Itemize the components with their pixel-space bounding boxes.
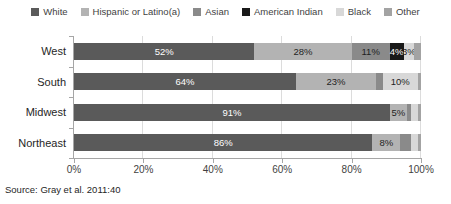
segment-value-label: 8% [379, 138, 393, 148]
category-label-midwest: Midwest [0, 97, 66, 128]
bar-west: 52%28%11%4%3% [74, 43, 421, 60]
segment-midwest-hispanic-or-latino-a: 5% [390, 104, 407, 121]
stacked-bar-chart: WhiteHispanic or Latino(a)AsianAmerican … [0, 0, 451, 204]
segment-midwest-other [418, 104, 421, 121]
segment-west-black: 3% [404, 43, 414, 60]
segment-value-label: 28% [294, 47, 313, 57]
segment-west-hispanic-or-latino-a: 28% [254, 43, 351, 60]
segment-west-other [414, 43, 421, 60]
value-axis-tick [421, 159, 422, 163]
value-axis-tick [352, 159, 353, 163]
segment-south-hispanic-or-latino-a: 23% [296, 73, 376, 90]
segment-northeast-black [411, 134, 418, 151]
segment-south-other [418, 73, 421, 90]
segment-west-white: 52% [74, 43, 254, 60]
segment-northeast-other [418, 134, 421, 151]
segment-value-label: 86% [214, 138, 233, 148]
legend-label: Other [396, 6, 420, 17]
category-axis-tick [69, 67, 74, 68]
plot-area: 52%28%11%4%3%64%23%10%91%5%86%8% [74, 36, 421, 158]
legend-label: Black [348, 6, 371, 17]
source-note: Source: Gray et al. 2011:40 [5, 184, 120, 195]
legend: WhiteHispanic or Latino(a)AsianAmerican … [0, 6, 451, 17]
category-label-west: West [0, 36, 66, 67]
legend-item-hispanic-or-latino-a: Hispanic or Latino(a) [81, 6, 181, 17]
segment-south-white: 64% [74, 73, 296, 90]
segment-south-black: 10% [383, 73, 418, 90]
category-axis-tick [69, 128, 74, 129]
segment-northeast-white: 86% [74, 134, 372, 151]
segment-value-label: 64% [176, 77, 195, 87]
bar-northeast: 86%8% [74, 134, 421, 151]
legend-item-american-indian: American Indian [242, 6, 323, 17]
category-axis-tick [69, 97, 74, 98]
legend-swatch-other-icon [384, 8, 392, 16]
legend-item-black: Black [336, 6, 371, 17]
legend-label: American Indian [254, 6, 323, 17]
legend-item-white: White [31, 6, 67, 17]
category-axis-tick [69, 36, 74, 37]
legend-item-asian: Asian [193, 6, 229, 17]
legend-swatch-american-indian-icon [242, 8, 250, 16]
legend-label: White [43, 6, 67, 17]
legend-swatch-black-icon [336, 8, 344, 16]
legend-label: Asian [205, 6, 229, 17]
category-label-northeast: Northeast [0, 128, 66, 159]
segment-northeast-asian [400, 134, 410, 151]
segment-value-label: 91% [222, 108, 241, 118]
bar-south: 64%23%10% [74, 73, 421, 90]
value-axis-tick [282, 159, 283, 163]
segment-midwest-black [411, 104, 418, 121]
legend-label: Hispanic or Latino(a) [93, 6, 181, 17]
value-axis-tick-label: 40% [193, 164, 233, 175]
value-axis-tick-label: 80% [332, 164, 372, 175]
value-axis-tick [143, 159, 144, 163]
value-axis-tick-label: 0% [54, 164, 94, 175]
segment-west-asian: 11% [352, 43, 390, 60]
segment-midwest-white: 91% [74, 104, 390, 121]
legend-swatch-asian-icon [193, 8, 201, 16]
segment-value-label: 23% [326, 77, 345, 87]
segment-northeast-hispanic-or-latino-a: 8% [372, 134, 400, 151]
bar-midwest: 91%5% [74, 104, 421, 121]
segment-value-label: 10% [391, 77, 410, 87]
segment-value-label: 5% [392, 108, 406, 118]
value-axis-line [73, 158, 422, 159]
legend-swatch-hispanic-or-latino-a-icon [81, 8, 89, 16]
value-axis-tick-label: 20% [123, 164, 163, 175]
segment-south-asian [376, 73, 383, 90]
legend-swatch-white-icon [31, 8, 39, 16]
value-axis-tick-label: 100% [401, 164, 441, 175]
value-axis-tick-label: 60% [262, 164, 302, 175]
segment-value-label: 11% [362, 47, 380, 57]
legend-item-other: Other [384, 6, 420, 17]
value-axis-tick [74, 159, 75, 163]
segment-value-label: 52% [155, 47, 174, 57]
category-label-south: South [0, 67, 66, 98]
value-axis-tick [213, 159, 214, 163]
